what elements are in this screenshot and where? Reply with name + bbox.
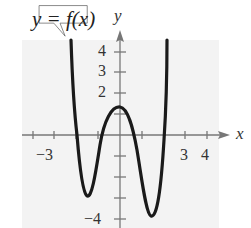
- function-curve: [71, 40, 167, 216]
- equation-label: y = f(x): [32, 7, 95, 32]
- y-axis: [114, 30, 126, 228]
- x-axis: [22, 131, 230, 139]
- y-tick-label-2: 2: [98, 83, 106, 101]
- x-tick-label-4: 4: [201, 146, 209, 164]
- y-tick-label-3: 3: [98, 62, 106, 80]
- x-tick-label-3: 3: [180, 146, 188, 164]
- x-tick-label-neg3: −3: [36, 146, 53, 164]
- y-axis-label: y: [114, 6, 122, 26]
- y-tick-label-4: 4: [98, 42, 106, 60]
- y-tick-label-neg4: −4: [84, 210, 101, 228]
- x-axis-label: x: [236, 124, 244, 144]
